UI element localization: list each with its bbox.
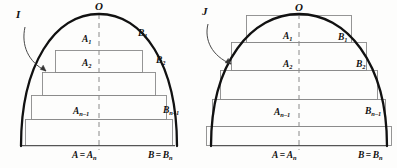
center-label-A2: A2 — [283, 60, 293, 70]
circumscribed-diagram-svg — [198, 0, 397, 168]
leader-line-J — [207, 24, 231, 64]
figure-pair: I O A1 A2 An–1 B1 B2 Bn–1 A=An B=Bn — [0, 0, 397, 168]
base-label-B-equals-Bn: B=Bn — [358, 151, 383, 161]
right-label-Bn-1: Bn–1 — [365, 107, 381, 117]
region-label-J: J — [202, 6, 208, 17]
base-label-A-equals-An: A=An — [72, 151, 97, 161]
inscribed-diagram-svg — [0, 0, 198, 168]
region-label-I: I — [16, 9, 20, 20]
center-label-A1: A1 — [283, 32, 293, 42]
right-label-B1: B1 — [138, 29, 148, 39]
base-label-B-equals-Bn: B=Bn — [148, 151, 173, 161]
apex-label-O: O — [295, 2, 303, 13]
center-label-A2: A2 — [82, 59, 92, 69]
figure-panel-circumscribed: J O A1 A2 An–1 B1 B2 Bn–1 A=An B=Bn — [198, 0, 397, 168]
right-label-B2: B2 — [156, 56, 166, 66]
right-label-B2: B2 — [356, 60, 366, 70]
leader-arrowhead-I — [40, 65, 46, 71]
right-label-Bn-1: Bn–1 — [163, 106, 179, 116]
center-label-A1: A1 — [82, 35, 92, 45]
right-label-B1: B1 — [338, 33, 348, 43]
base-label-A-equals-An: A=An — [272, 151, 297, 161]
apex-label-O: O — [95, 1, 103, 12]
center-label-An-1: An–1 — [73, 107, 89, 117]
figure-panel-inscribed: I O A1 A2 An–1 B1 B2 Bn–1 A=An B=Bn — [0, 0, 198, 168]
center-label-An-1: An–1 — [274, 108, 290, 118]
